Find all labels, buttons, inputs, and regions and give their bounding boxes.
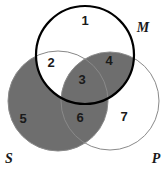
set-label-M: M [136, 20, 150, 35]
region-label-3: 3 [78, 72, 85, 87]
region-label-5: 5 [19, 111, 26, 126]
region-label-6: 6 [76, 110, 83, 125]
set-label-S: S [5, 151, 13, 166]
venn-diagram-canvas: 1 2 3 4 5 6 7 M S P [0, 0, 166, 177]
region-label-1: 1 [81, 13, 88, 28]
region-label-4: 4 [105, 53, 113, 68]
region-label-2: 2 [47, 55, 54, 70]
venn-diagram-figure: 1 2 3 4 5 6 7 M S P [0, 0, 166, 177]
region-label-7: 7 [120, 109, 127, 124]
set-label-P: P [152, 151, 161, 166]
